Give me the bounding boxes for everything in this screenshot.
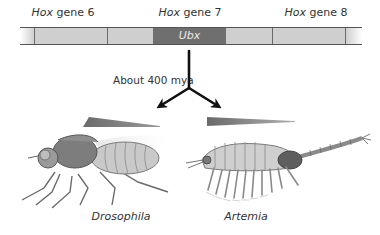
artemia-shrimp-illustration <box>186 134 371 201</box>
drosophila-expression-wedge <box>83 117 160 127</box>
illustration-layer <box>0 0 380 235</box>
drosophila-fly-illustration <box>22 135 182 208</box>
divergence-arrow-icon <box>160 51 218 106</box>
species-label-artemia: Artemia <box>224 210 268 223</box>
artemia-expression-wedge <box>207 117 295 126</box>
species-label-drosophila: Drosophila <box>92 210 151 223</box>
